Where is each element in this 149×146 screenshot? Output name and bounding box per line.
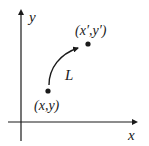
diagram-canvas: y x (x,y) (x′,y′) L	[0, 0, 149, 146]
x-axis-label: x	[127, 127, 135, 143]
x-axis-arrowhead-icon	[132, 119, 138, 125]
y-axis-label: y	[27, 9, 36, 25]
y-axis-arrowhead-icon	[18, 9, 24, 15]
y-axis	[18, 9, 24, 141]
x-axis	[8, 119, 138, 125]
end-point-dot	[85, 41, 90, 46]
path-label: L	[64, 67, 73, 83]
start-point-label: (x,y)	[34, 98, 60, 114]
end-point-label: (x′,y′)	[75, 23, 107, 39]
path-curve-L	[49, 48, 78, 85]
start-point-dot	[45, 88, 50, 93]
